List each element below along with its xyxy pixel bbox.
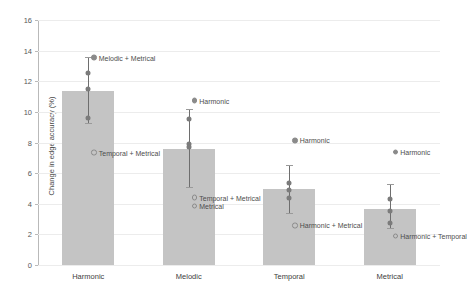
annotation-text: Harmonic	[400, 148, 430, 155]
annotation-label: Harmonic	[192, 97, 229, 104]
y-tick-label: 8	[8, 138, 32, 147]
annotation-label: Temporal + Metrical	[91, 149, 160, 156]
y-tick-mark	[35, 234, 38, 235]
data-point	[387, 208, 392, 213]
data-point	[86, 87, 91, 92]
y-tick-mark	[35, 20, 38, 21]
annotation-text: Metrical	[199, 203, 224, 210]
annotation-text: Melodic + Metrical	[99, 54, 156, 61]
y-tick-mark	[35, 81, 38, 82]
y-tick-label: 6	[8, 169, 32, 178]
annotation-marker-icon	[192, 195, 198, 201]
annotation-text: Temporal + Metrical	[99, 149, 160, 156]
y-tick-label: 2	[8, 230, 32, 239]
data-point	[86, 71, 91, 76]
y-tick-label: 12	[8, 77, 32, 86]
y-tick-mark	[35, 173, 38, 174]
y-tick-label: 10	[8, 107, 32, 116]
annotation-text: Harmonic	[300, 137, 330, 144]
annotation-marker-icon	[91, 55, 97, 61]
data-point	[287, 181, 292, 186]
annotation-label: Harmonic + Metrical	[292, 222, 362, 229]
y-gridline	[38, 265, 440, 266]
annotation-marker-icon	[393, 149, 399, 155]
error-bar-cap-bottom	[387, 228, 394, 229]
annotation-marker-icon	[192, 98, 198, 104]
y-tick-mark	[35, 112, 38, 113]
data-point	[186, 116, 191, 121]
annotation-text: Harmonic	[199, 97, 229, 104]
y-tick-label: 14	[8, 46, 32, 55]
data-point	[186, 145, 191, 150]
error-bar-cap-bottom	[85, 123, 92, 124]
annotation-marker-icon	[292, 138, 298, 144]
x-tick-label-metrical: Metrical	[330, 272, 450, 281]
annotation-marker-icon	[192, 203, 198, 209]
annotation-marker-icon	[91, 150, 97, 156]
data-point	[387, 196, 392, 201]
y-gridline	[38, 51, 440, 52]
y-tick-label: 0	[8, 261, 32, 270]
annotation-marker-icon	[292, 223, 298, 229]
y-tick-mark	[35, 265, 38, 266]
annotation-label: Metrical	[192, 203, 224, 210]
data-point	[387, 221, 392, 226]
annotation-label: Harmonic	[292, 137, 329, 144]
annotation-text: Harmonic + Temporal	[400, 233, 467, 240]
y-gridline	[38, 20, 440, 21]
y-tick-label: 16	[8, 16, 32, 25]
annotation-label: Temporal + Metrical	[192, 194, 261, 201]
error-bar-cap-bottom	[286, 213, 293, 214]
annotation-label: Harmonic + Temporal	[393, 233, 467, 240]
y-tick-mark	[35, 51, 38, 52]
annotation-text: Temporal + Metrical	[199, 194, 260, 201]
data-point	[86, 116, 91, 121]
y-gridline	[38, 81, 440, 82]
annotation-label: Melodic + Metrical	[91, 54, 155, 61]
annotation-label: Harmonic	[393, 148, 430, 155]
data-point	[287, 195, 292, 200]
annotation-marker-icon	[393, 233, 399, 239]
y-tick-mark	[35, 204, 38, 205]
error-bar-cap-top	[286, 165, 293, 166]
error-bar-cap-bottom	[186, 187, 193, 188]
y-tick-label: 4	[8, 199, 32, 208]
error-bar-cap-top	[186, 109, 193, 110]
y-tick-mark	[35, 143, 38, 144]
data-point	[287, 188, 292, 193]
annotation-text: Harmonic + Metrical	[300, 222, 362, 229]
plot-area: Melodic + MetricalTemporal + MetricalHar…	[38, 20, 440, 265]
error-bar-cap-top	[387, 184, 394, 185]
